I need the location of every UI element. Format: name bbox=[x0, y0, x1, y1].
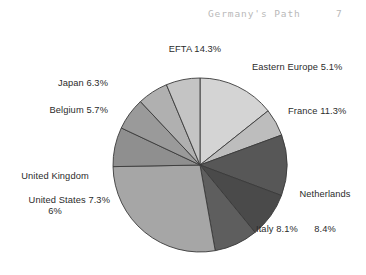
slice-label-united-kingdom-line2: 6% bbox=[2, 206, 108, 218]
slice-label-efta: EFTA 14.3% bbox=[150, 44, 240, 56]
slice-label-eastern-europe: Eastern Europe 5.1% bbox=[252, 62, 364, 74]
pie-slice-other bbox=[113, 165, 215, 252]
slice-label-united-kingdom: United Kingdom 6% bbox=[2, 148, 108, 240]
page-canvas: Germany's Path 7 EFTA 14.3% Eastern Euro… bbox=[0, 0, 366, 275]
slice-label-italy: Italy 8.1% bbox=[256, 224, 342, 236]
slice-label-netherlands: Netherlands 8.4% bbox=[286, 166, 364, 258]
slice-label-japan: Japan 6.3% bbox=[2, 78, 108, 90]
slice-label-belgium: Belgium 5.7% bbox=[2, 105, 108, 117]
slice-label-netherlands-line1: Netherlands bbox=[286, 189, 364, 201]
slice-label-united-kingdom-line1: United Kingdom bbox=[2, 171, 108, 183]
slice-label-france: France 11.3% bbox=[288, 106, 364, 118]
pie-chart: EFTA 14.3% Eastern Europe 5.1% France 11… bbox=[0, 0, 366, 275]
